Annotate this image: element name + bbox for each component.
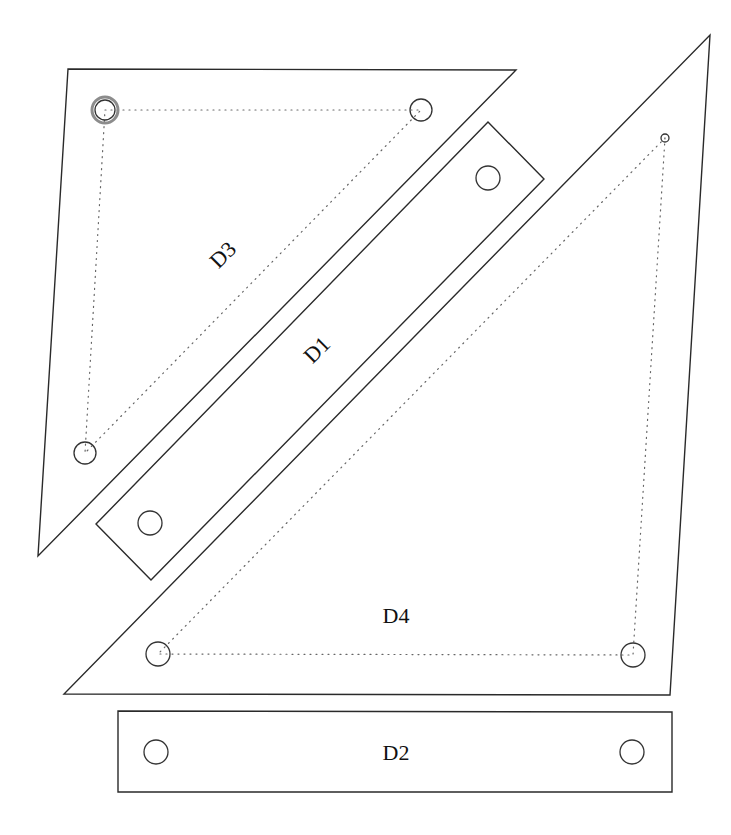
d3-outline <box>38 69 516 556</box>
piece-d4: D4 <box>64 35 710 695</box>
hole-circle-icon <box>144 740 168 764</box>
d3-label: D3 <box>204 236 241 273</box>
pieces-layer: D3D1D4D2 <box>38 35 710 792</box>
hole-circle-icon <box>410 99 432 121</box>
diagram-canvas: D3D1D4D2 <box>0 0 731 835</box>
piece-d1: D1 <box>96 122 544 580</box>
d4-outline <box>64 35 710 695</box>
hole-circle-icon <box>138 511 162 535</box>
d2-label: D2 <box>383 740 410 765</box>
d3-dotted-guide <box>85 110 421 453</box>
d1-label: D1 <box>298 331 335 368</box>
d4-dotted-guide <box>158 138 665 655</box>
hole-circle-icon <box>620 740 644 764</box>
piece-d3: D3 <box>38 69 516 556</box>
d4-label: D4 <box>383 603 410 628</box>
piece-d2: D2 <box>118 711 672 792</box>
hole-circle-icon <box>621 643 645 667</box>
hole-circle-icon <box>476 166 500 190</box>
